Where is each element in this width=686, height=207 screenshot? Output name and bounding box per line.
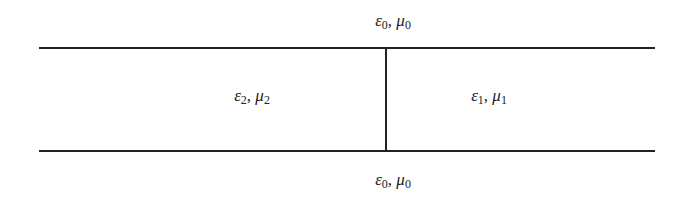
separator: ,: [388, 11, 397, 30]
label-left-region: ε2, μ2: [234, 86, 270, 108]
mu-symbol: μ: [396, 170, 405, 189]
label-bottom-region: ε0, μ0: [375, 170, 411, 192]
interface-line: [385, 47, 387, 152]
label-top-region: ε0, μ0: [375, 11, 411, 33]
mu-symbol: μ: [492, 86, 501, 105]
separator: ,: [484, 86, 493, 105]
mu-subscript: 0: [405, 177, 411, 191]
mu-subscript: 1: [501, 93, 507, 107]
mu-subscript: 2: [264, 93, 270, 107]
mu-symbol: μ: [396, 11, 405, 30]
separator: ,: [388, 170, 397, 189]
separator: ,: [247, 86, 256, 105]
epsilon-symbol: ε: [471, 86, 478, 105]
bottom-boundary-line: [39, 150, 655, 152]
label-right-region: ε1, μ1: [471, 86, 507, 108]
mu-subscript: 0: [405, 18, 411, 32]
epsilon-symbol: ε: [375, 170, 382, 189]
top-boundary-line: [39, 47, 655, 49]
epsilon-symbol: ε: [234, 86, 241, 105]
epsilon-symbol: ε: [375, 11, 382, 30]
mu-symbol: μ: [255, 86, 264, 105]
